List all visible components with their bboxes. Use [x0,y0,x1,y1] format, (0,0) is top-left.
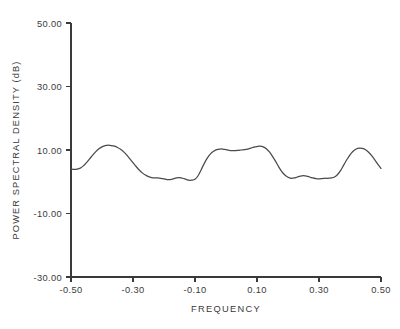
figure-container: 50.00 30.00 10.00 -10.00 -30.00 -0.50 -0… [0,0,400,329]
x-tick-label-neg010: -0.10 [184,285,207,295]
x-tick-label-050: 0.50 [371,285,391,295]
y-axis-title: POWER SPECTRAL DENSITY (dB) [11,61,21,240]
y-tick-label-30: 30.00 [37,82,62,92]
psd-chart: 50.00 30.00 10.00 -10.00 -30.00 -0.50 -0… [0,0,400,329]
x-tick-label-neg030: -0.30 [122,285,145,295]
x-axis-ticks [71,277,381,282]
psd-data-curve [71,145,381,180]
y-axis-ticks [66,23,71,277]
x-tick-label-010: 0.10 [247,285,267,295]
x-tick-label-neg050: -0.50 [60,285,83,295]
x-tick-label-030: 0.30 [309,285,329,295]
x-axis-title: FREQUENCY [191,304,261,314]
y-tick-label-neg10: -10.00 [34,209,62,219]
y-tick-label-neg30: -30.00 [34,273,62,283]
y-tick-label-10: 10.00 [37,146,62,156]
y-tick-label-50: 50.00 [37,19,62,29]
